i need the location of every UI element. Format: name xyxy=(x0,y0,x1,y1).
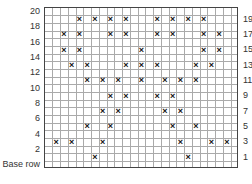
row-label: 12 xyxy=(30,67,40,77)
stitch-mark: × xyxy=(122,30,130,38)
stitch-mark: × xyxy=(169,92,177,100)
stitch-mark: × xyxy=(192,61,200,69)
row-label: 19 xyxy=(243,14,252,24)
stitch-mark: × xyxy=(161,76,169,84)
stitch-mark: × xyxy=(138,76,146,84)
grid-row-line xyxy=(45,130,237,131)
grid-column-line xyxy=(91,8,92,167)
stitch-mark: × xyxy=(207,61,215,69)
grid-column-line xyxy=(192,8,193,167)
row-label: 2 xyxy=(35,144,40,154)
grid-column-line xyxy=(145,8,146,167)
grid-column-line xyxy=(161,8,162,167)
row-label: 16 xyxy=(30,37,40,47)
stitch-mark: × xyxy=(114,107,122,115)
stitch-mark: × xyxy=(200,30,208,38)
grid-column-line xyxy=(130,8,131,167)
stitch-mark: × xyxy=(75,46,83,54)
row-label: 1 xyxy=(243,152,248,162)
grid-row-line xyxy=(45,15,237,16)
stitch-mark: × xyxy=(60,46,68,54)
stitch-mark: × xyxy=(106,122,114,130)
grid-column-line xyxy=(138,8,139,167)
stitch-mark: × xyxy=(75,30,83,38)
grid-row-line xyxy=(45,38,237,39)
row-label: 13 xyxy=(243,60,252,70)
stitch-mark: × xyxy=(153,61,161,69)
row-label: 11 xyxy=(243,75,252,85)
stitch-mark: × xyxy=(184,153,192,161)
stitch-mark: × xyxy=(153,92,161,100)
stitch-mark: × xyxy=(83,61,91,69)
grid-row-line xyxy=(45,31,237,32)
stitch-mark: × xyxy=(99,76,107,84)
stitch-mark: × xyxy=(192,76,200,84)
row-label: 9 xyxy=(243,90,248,100)
stitch-mark: × xyxy=(106,92,114,100)
grid-row-line xyxy=(45,115,237,116)
stitch-mark: × xyxy=(176,107,184,115)
row-label: 4 xyxy=(35,129,40,139)
grid-row-line xyxy=(45,100,237,101)
stitch-mark: × xyxy=(200,46,208,54)
stitch-mark: × xyxy=(122,61,130,69)
stitch-mark: × xyxy=(68,138,76,146)
row-label: 14 xyxy=(30,52,40,62)
stitch-mark: × xyxy=(106,30,114,38)
grid-column-line xyxy=(83,8,84,167)
stitch-mark: × xyxy=(122,15,130,23)
stitch-chart-grid: ××××××××××××××××××××××××××××××××××××××××… xyxy=(44,7,238,168)
stitch-mark: × xyxy=(184,15,192,23)
stitch-mark: × xyxy=(207,138,215,146)
grid-column-line xyxy=(114,8,115,167)
stitch-mark: × xyxy=(91,153,99,161)
stitch-mark: × xyxy=(215,46,223,54)
grid-column-line xyxy=(231,8,232,167)
row-label: 20 xyxy=(30,6,40,16)
stitch-mark: × xyxy=(176,138,184,146)
row-label: 3 xyxy=(243,136,248,146)
row-label: 15 xyxy=(243,44,252,54)
stitch-mark: × xyxy=(192,122,200,130)
stitch-mark: × xyxy=(60,30,68,38)
grid-row-line xyxy=(45,161,237,162)
stitch-mark: × xyxy=(169,30,177,38)
stitch-mark: × xyxy=(138,61,146,69)
stitch-mark: × xyxy=(99,107,107,115)
stitch-mark: × xyxy=(68,61,76,69)
grid-row-line xyxy=(45,153,237,154)
row-label: 18 xyxy=(30,21,40,31)
stitch-mark: × xyxy=(169,15,177,23)
row-label: 7 xyxy=(243,106,248,116)
stitch-mark: × xyxy=(114,76,122,84)
stitch-mark: × xyxy=(169,122,177,130)
stitch-mark: × xyxy=(91,15,99,23)
grid-row-line xyxy=(45,92,237,93)
stitch-mark: × xyxy=(153,15,161,23)
stitch-mark: × xyxy=(176,76,184,84)
row-label: 17 xyxy=(243,29,252,39)
stitch-mark: × xyxy=(122,92,130,100)
grid-row-line xyxy=(45,123,237,124)
stitch-mark: × xyxy=(138,46,146,54)
stitch-mark: × xyxy=(161,107,169,115)
stitch-mark: × xyxy=(52,138,60,146)
row-label: 8 xyxy=(35,98,40,108)
stitch-mark: × xyxy=(75,15,83,23)
row-label: 10 xyxy=(30,83,40,93)
stitch-mark: × xyxy=(153,30,161,38)
stitch-mark: × xyxy=(200,15,208,23)
grid-row-line xyxy=(45,23,237,24)
stitch-mark: × xyxy=(106,15,114,23)
stitch-mark: × xyxy=(215,30,223,38)
grid-column-line xyxy=(184,8,185,167)
stitch-mark: × xyxy=(223,138,231,146)
stitch-mark: × xyxy=(99,138,107,146)
row-label: Base row xyxy=(2,159,40,169)
stitch-mark: × xyxy=(83,122,91,130)
grid-row-line xyxy=(45,107,237,108)
row-label: 6 xyxy=(35,113,40,123)
stitch-mark: × xyxy=(83,76,91,84)
row-label: 5 xyxy=(243,121,248,131)
